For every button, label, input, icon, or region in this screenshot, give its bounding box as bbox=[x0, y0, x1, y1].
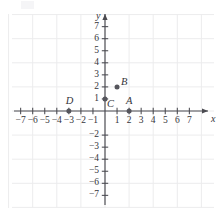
point-label-d: D bbox=[66, 96, 74, 107]
y-tick-label: −5 bbox=[81, 166, 99, 176]
y-tick-label: −4 bbox=[81, 154, 99, 164]
axes-lines bbox=[14, 14, 208, 205]
y-tick-label: 2 bbox=[81, 82, 99, 92]
y-tick-label: 3 bbox=[81, 70, 99, 80]
x-axis-label: x bbox=[211, 114, 215, 124]
y-tick-label: 7 bbox=[81, 22, 99, 32]
y-tick-label: −3 bbox=[81, 142, 99, 152]
point-label-b: B bbox=[121, 77, 127, 88]
y-tick-label: −7 bbox=[81, 190, 99, 200]
y-tick-label: 6 bbox=[81, 34, 99, 44]
y-tick-label: 5 bbox=[81, 46, 99, 56]
y-axis-label: y bbox=[96, 11, 100, 21]
coordinate-plane-figure: −7−6−5−4−3−2−112345677654321−2−3−4−5−6−7… bbox=[0, 0, 223, 214]
y-tick-label: 1 bbox=[81, 94, 99, 104]
y-tick-label: −6 bbox=[81, 178, 99, 188]
x-tick-label: 7 bbox=[180, 116, 198, 126]
point-label-a: A bbox=[126, 96, 132, 107]
x-tick-label: −1 bbox=[84, 116, 102, 126]
point-label-c: C bbox=[107, 99, 114, 110]
y-tick-label: −2 bbox=[81, 130, 99, 140]
y-tick-label: 4 bbox=[81, 58, 99, 68]
